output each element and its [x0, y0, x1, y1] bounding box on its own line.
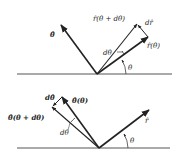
- d-theta-arc-bottom: [71, 118, 75, 122]
- label-r-hat: r̂: [145, 117, 149, 125]
- theta-hat-arrow: [61, 25, 97, 74]
- label-theta-hat-theta-plus-dtheta: θ̂(θ + dθ): [8, 113, 44, 122]
- theta-hat-theta-plus-dtheta-arrow: [52, 107, 99, 148]
- top-panel: θ̂ r̂(θ + dθ) dr̂ r̂(θ) dθ θ: [17, 15, 172, 74]
- theta-arc: [122, 60, 126, 74]
- label-r-hat-theta-plus-dtheta: r̂(θ + dθ): [93, 15, 125, 23]
- r-hat-arrow: [99, 110, 149, 148]
- label-theta-bottom: θ: [130, 137, 135, 145]
- label-theta-hat: θ̂: [50, 30, 55, 39]
- bottom-panel: dθ̂ θ̂(θ) θ̂(θ + dθ) dθ r̂ θ: [8, 93, 170, 148]
- label-d-theta-hat: dθ̂: [45, 93, 55, 102]
- label-d-theta: dθ: [103, 49, 112, 57]
- label-r-hat-theta: r̂(θ): [147, 42, 160, 50]
- theta-arc-bottom: [124, 134, 128, 148]
- label-theta: θ: [128, 64, 133, 72]
- label-d-theta-bottom: dθ: [60, 129, 69, 137]
- d-theta-arc: [122, 51, 124, 54]
- label-d-r-hat: dr̂: [145, 19, 154, 27]
- polar-unit-vector-diagram: θ̂ r̂(θ + dθ) dr̂ r̂(θ) dθ θ dθ̂ θ̂(θ) θ…: [0, 0, 177, 155]
- label-theta-hat-theta: θ̂(θ): [72, 96, 88, 105]
